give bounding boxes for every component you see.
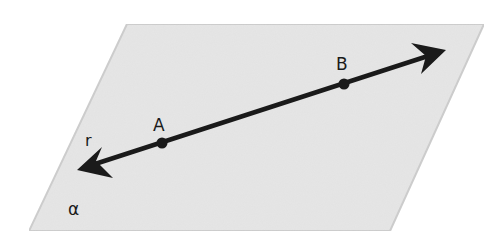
line-r-label: r xyxy=(85,131,92,150)
plane-line-diagram: A B r α xyxy=(0,0,494,243)
point-a xyxy=(157,138,168,149)
point-b xyxy=(339,79,350,90)
plane-alpha-label: α xyxy=(68,199,79,219)
point-b-label: B xyxy=(336,54,348,74)
point-a-label: A xyxy=(153,115,165,135)
plane-alpha xyxy=(29,24,484,231)
